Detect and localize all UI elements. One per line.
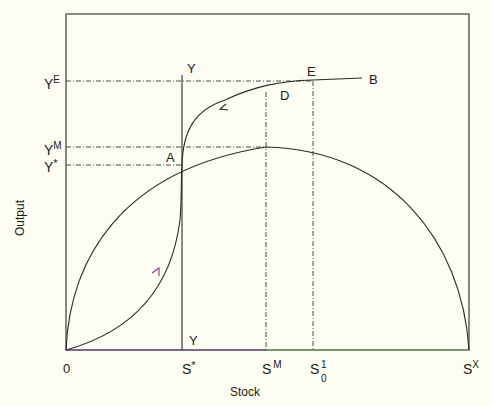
point-b-label: B xyxy=(369,72,378,87)
point-e-label: E xyxy=(307,64,316,79)
adjustment-path-upper xyxy=(182,78,362,165)
origin-label: 0 xyxy=(63,361,70,376)
s-0-1-sup: 1 xyxy=(321,359,327,370)
y-e-label: YE xyxy=(44,74,60,92)
s-x-label: SX xyxy=(463,359,479,377)
s-0-1-sub: 0 xyxy=(321,373,327,384)
y-line-bottom-label: Y xyxy=(189,333,198,348)
plot-frame xyxy=(66,14,469,350)
arrow-down-left-icon xyxy=(220,104,228,110)
y-m-label: YM xyxy=(44,140,62,158)
arrow-up-icon xyxy=(152,268,159,276)
s-m-label: SM xyxy=(262,359,282,377)
x-axis-title: Stock xyxy=(230,385,261,399)
adjustment-path-lower xyxy=(66,165,182,350)
s-0-1-label: S xyxy=(310,361,319,377)
s-star-label: S* xyxy=(182,359,196,377)
y-axis-title: Output xyxy=(13,199,27,236)
diagram-canvas: YE YM Y* Output Y Y A E D B 0 S* SM S 1 … xyxy=(0,0,492,406)
point-d-label: D xyxy=(280,88,289,103)
growth-curve xyxy=(66,147,469,350)
point-a-label: A xyxy=(166,150,175,165)
y-line-top-label: Y xyxy=(187,61,196,76)
y-star-label: Y* xyxy=(44,157,58,175)
